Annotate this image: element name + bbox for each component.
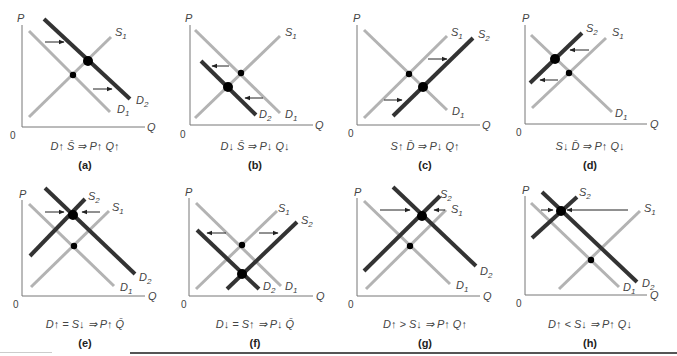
panel-e: P Q 0 S2 S1 D1 D2 D↑ = S↓ ⇒ P↑ Q̄ (e) bbox=[0, 178, 170, 356]
axis-p-label: P bbox=[185, 186, 193, 198]
formula-e: D↑ = S↓ ⇒ P↑ Q̄ bbox=[0, 318, 170, 331]
origin-label: 0 bbox=[516, 298, 522, 309]
equilibrium-new bbox=[83, 56, 93, 66]
formula-g: D↑ > S↓ ⇒ P↑ Q↑ bbox=[340, 318, 510, 331]
formula-h: D↑ < S↓ ⇒ P↑ Q↓ bbox=[505, 318, 675, 331]
panel-f: P Q 0 S1 S2 D2 D1 D↓ = S↑ ⇒ P↓ Q̄ (f) bbox=[170, 178, 340, 356]
caption-f: (f) bbox=[170, 337, 340, 349]
supply-curve-s2 bbox=[227, 222, 297, 289]
formula-c: S↑ D̄ ⇒ P↓ Q↑ bbox=[340, 140, 510, 153]
equilibrium-new bbox=[550, 54, 560, 64]
axis-p-label: P bbox=[354, 186, 362, 198]
graph-c: P Q 0 S1 S2 D1 bbox=[340, 0, 510, 140]
caption-d: (d) bbox=[505, 159, 675, 171]
axis-p-label: P bbox=[522, 184, 530, 196]
graph-a: P Q 0 S1 D1 D2 bbox=[0, 0, 170, 140]
label-d1: D1 bbox=[456, 279, 468, 294]
label-s1: S1 bbox=[115, 26, 127, 41]
caption-a: (a) bbox=[0, 159, 170, 171]
formula-a: D↑ S̄ ⇒ P↑ Q↑ bbox=[0, 140, 170, 153]
label-d2: D2 bbox=[136, 94, 149, 109]
graph-b: P Q 0 S1 D1 D2 bbox=[170, 0, 340, 140]
panel-h: P Q 0 S2 S1 D1 D2 D↑ < S↓ ⇒ P↑ Q↓ (h) bbox=[505, 178, 675, 356]
origin-label: 0 bbox=[348, 128, 354, 139]
label-d2: D2 bbox=[642, 277, 655, 292]
formula-f: D↓ = S↑ ⇒ P↓ Q̄ bbox=[170, 318, 340, 331]
equilibrium-new bbox=[418, 82, 428, 92]
caption-b: (b) bbox=[170, 159, 340, 171]
axis-q-label: Q bbox=[316, 290, 325, 302]
caption-c: (c) bbox=[340, 159, 510, 171]
origin-label: 0 bbox=[180, 129, 186, 140]
label-s2: S2 bbox=[478, 28, 490, 43]
equilibrium-old bbox=[406, 71, 412, 77]
label-d1: D1 bbox=[120, 281, 132, 296]
caption-h: (h) bbox=[505, 337, 675, 349]
axis-p-label: P bbox=[353, 12, 361, 24]
divider-left bbox=[0, 352, 52, 353]
label-d1: D1 bbox=[285, 280, 297, 295]
origin-label: 0 bbox=[13, 299, 19, 310]
equilibrium-old bbox=[588, 257, 594, 263]
label-s2: S2 bbox=[440, 188, 452, 203]
origin-label: 0 bbox=[516, 127, 522, 138]
graph-h: P Q 0 S2 S1 D1 D2 bbox=[505, 178, 675, 318]
graph-d: P Q 0 S2 S1 D1 bbox=[505, 0, 675, 140]
equilibrium-old bbox=[238, 70, 244, 76]
equilibrium-old bbox=[407, 243, 413, 249]
label-s2: S2 bbox=[579, 186, 591, 201]
label-d1: D1 bbox=[623, 281, 635, 296]
equilibrium-new bbox=[237, 269, 247, 279]
supply-curve-s1 bbox=[366, 210, 446, 289]
equilibrium-new bbox=[556, 206, 566, 216]
demand-curve-d1 bbox=[364, 30, 447, 110]
label-d2: D2 bbox=[139, 271, 152, 286]
panel-d: P Q 0 S2 S1 D1 S↓ D̄ ⇒ P↑ Q↓ (d) bbox=[505, 0, 675, 178]
label-d1: D1 bbox=[285, 108, 297, 123]
axis-q-label: Q bbox=[148, 290, 157, 302]
formula-b: D↓ S̄ ⇒ P↓ Q↓ bbox=[170, 140, 340, 153]
label-s1: S1 bbox=[278, 202, 290, 217]
demand-curve-d2 bbox=[542, 192, 637, 282]
formula-d: S↓ D̄ ⇒ P↑ Q↓ bbox=[505, 140, 675, 153]
caption-g: (g) bbox=[340, 337, 510, 349]
axis-p-label: P bbox=[17, 12, 25, 24]
axis-q-label: Q bbox=[147, 121, 156, 133]
supply-curve-s2 bbox=[364, 196, 440, 271]
label-s1: S1 bbox=[451, 203, 463, 218]
axis-q-label: Q bbox=[315, 119, 324, 131]
axis-q-label: Q bbox=[650, 118, 659, 130]
label-s1: S1 bbox=[644, 202, 656, 217]
supply-curve-s1 bbox=[31, 211, 109, 287]
label-s1: S1 bbox=[112, 201, 124, 216]
label-d2: D2 bbox=[480, 265, 493, 280]
label-d1: D1 bbox=[615, 107, 627, 122]
label-s1: S1 bbox=[451, 26, 463, 41]
axis-q-label: Q bbox=[482, 119, 491, 131]
axis-q-label: Q bbox=[483, 290, 492, 302]
demand-curve-d1 bbox=[195, 30, 280, 113]
label-s2: S2 bbox=[88, 190, 100, 205]
label-d1: D1 bbox=[117, 103, 129, 118]
graph-g: P Q 0 S2 S1 D1 D2 bbox=[340, 178, 510, 318]
supply-curve-s1 bbox=[195, 36, 280, 118]
equilibrium-new bbox=[68, 210, 78, 220]
panel-b: P Q 0 S1 D1 D2 D↓ S̄ ⇒ P↓ Q↓ (b) bbox=[170, 0, 340, 178]
axis-p-label: P bbox=[522, 12, 530, 24]
equilibrium-old bbox=[566, 70, 572, 76]
equilibrium-old bbox=[70, 72, 76, 78]
panel-a: P Q 0 S1 D1 D2 D↑ S̄ ⇒ P↑ Q↑ (a) bbox=[0, 0, 170, 178]
divider-bottom bbox=[130, 352, 677, 354]
supply-curve-s1 bbox=[559, 211, 640, 289]
label-d1: D1 bbox=[452, 105, 464, 120]
label-s1: S1 bbox=[285, 26, 297, 41]
supply-curve-s1 bbox=[29, 37, 111, 117]
equilibrium-old bbox=[71, 243, 77, 249]
equilibrium-old bbox=[239, 242, 245, 248]
label-d2: D2 bbox=[259, 108, 272, 123]
caption-e: (e) bbox=[0, 337, 170, 349]
label-s2: S2 bbox=[586, 22, 598, 37]
panel-g: P Q 0 S2 S1 D1 D2 D↑ > S↓ ⇒ P↑ Q↑ (g) bbox=[340, 178, 510, 356]
origin-label: 0 bbox=[181, 299, 187, 310]
equilibrium-new bbox=[223, 82, 233, 92]
